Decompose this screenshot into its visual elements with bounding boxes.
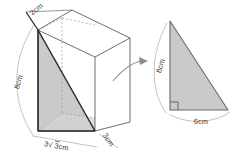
triangular-prism: 2cm 8cm 3 √ 3 cm 3cm	[12, 1, 130, 152]
figure-canvas: 2cm 8cm 3 √ 3 cm 3cm	[0, 0, 244, 155]
prism-depth-label: 2cm	[28, 1, 45, 17]
prism-base-front-unit: cm	[58, 142, 70, 153]
callout-arrow-head	[139, 57, 148, 65]
prism-base-front-label-group: 3 √ 3 cm	[43, 139, 69, 153]
prism-base-side-label: 3cm	[101, 131, 116, 148]
enlarged-right-triangle: 8cm 6cm	[154, 21, 230, 126]
triangle-vertical-leg-label: 8cm	[154, 58, 167, 74]
triangle-horizontal-leg-label: 6cm	[194, 117, 209, 126]
right-triangle-face	[170, 21, 228, 110]
callout-arrow-curve	[113, 61, 142, 81]
prism-height-label: 8cm	[12, 74, 25, 90]
callout-arrow	[113, 57, 148, 81]
geometry-figure: 2cm 8cm 3 √ 3 cm 3cm	[0, 0, 244, 155]
